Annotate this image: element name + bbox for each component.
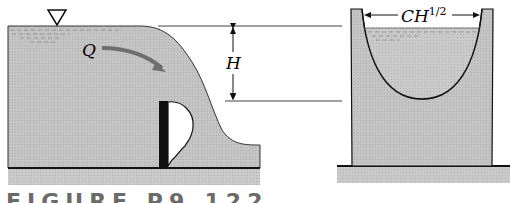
side-view: Q H	[8, 10, 342, 185]
front-view: CH1/2	[337, 5, 510, 183]
water-nappe	[8, 26, 260, 168]
flow-label: Q	[82, 40, 96, 60]
width-label: CH1/2	[401, 5, 447, 26]
free-surface-icon	[48, 10, 66, 25]
weir-plate	[159, 101, 168, 168]
head-label: H	[225, 53, 242, 73]
ground	[8, 168, 260, 185]
weir-diagram: Q H CH1/2	[0, 0, 510, 203]
figure-caption: FIGURE P9.122	[6, 191, 268, 203]
ground-right	[337, 166, 510, 183]
